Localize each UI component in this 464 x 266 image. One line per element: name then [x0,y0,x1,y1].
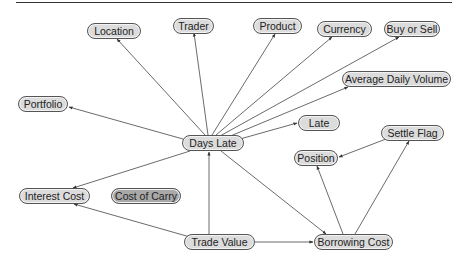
edge-days-late-to-trader [194,33,208,135]
node-trader: Trader [173,18,214,34]
node-currency: Currency [317,21,372,37]
edge-days-late-to-portfolio [69,107,183,139]
node-buy-or-sell: Buy or Sell [384,21,440,37]
node-late: Late [298,115,340,131]
node-product: Product [253,18,302,34]
edge-settle-flag-to-position [339,139,386,157]
node-average-daily-volume: Average Daily Volume [342,71,451,87]
edge-days-late-to-late [240,123,297,139]
node-interest-cost: Interest Cost [19,188,90,204]
node-position: Position [294,150,338,166]
node-location: Location [87,23,141,39]
edge-trade-value-to-interest-cost [74,204,190,237]
node-days-late: Days Late [182,135,244,151]
node-portfolio: Portfolio [18,96,68,112]
node-trade-value: Trade Value [184,234,255,250]
node-settle-flag: Settle Flag [381,125,444,141]
node-cost-of-carry: Cost of Carry [111,188,181,204]
edge-borrowing-cost-to-settle-flag [355,141,409,234]
edge-days-late-to-location [117,39,205,135]
node-borrowing-cost: Borrowing Cost [314,234,393,250]
edge-days-late-to-product [212,34,275,135]
edge-days-late-to-interest-cost [73,151,190,188]
edge-borrowing-cost-to-position [317,166,343,234]
